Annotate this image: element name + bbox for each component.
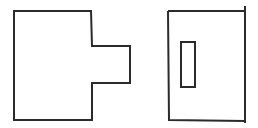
diagram-canvas: [0, 0, 258, 128]
